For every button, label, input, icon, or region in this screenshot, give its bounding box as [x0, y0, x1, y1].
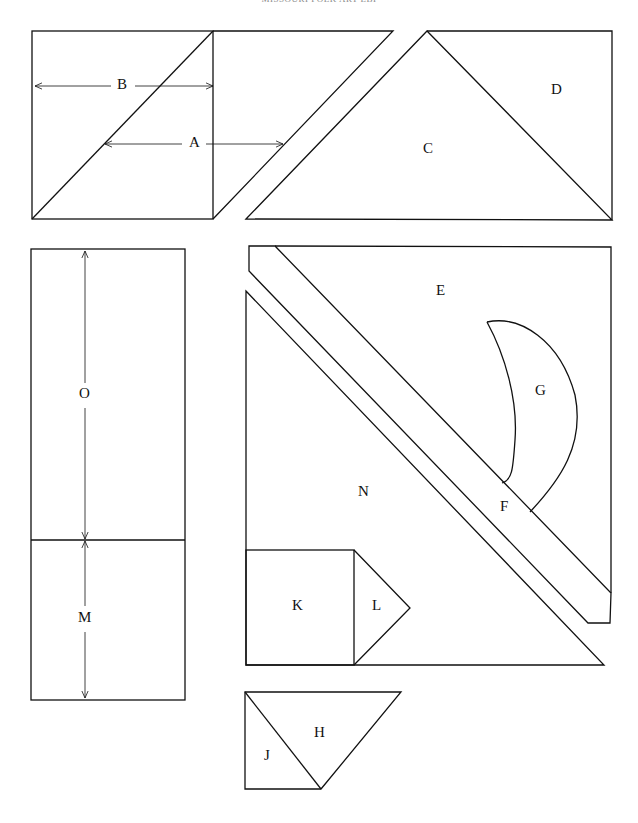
piece-c-triangle	[246, 31, 612, 220]
piece-g-inner	[487, 322, 515, 483]
piece-h-j-outline	[245, 692, 401, 789]
label-a: A	[189, 135, 200, 150]
piece-a-b-group	[32, 31, 393, 219]
piece-o-m-group	[31, 249, 185, 700]
label-n: N	[358, 484, 369, 499]
label-b: B	[117, 77, 127, 92]
piece-l-triangle	[354, 550, 410, 665]
label-k: K	[292, 598, 303, 613]
label-g: G	[535, 383, 546, 398]
piece-g-outer	[487, 321, 577, 512]
piece-o-m-rect	[31, 249, 185, 700]
label-o: O	[79, 386, 90, 401]
label-c: C	[423, 141, 433, 156]
piece-j-divider	[245, 692, 321, 789]
piece-a-parallelogram	[213, 31, 393, 219]
label-m: M	[78, 610, 91, 625]
label-d: D	[551, 82, 562, 97]
label-f: F	[500, 499, 508, 514]
label-h: H	[314, 725, 325, 740]
piece-a-diagonal	[32, 31, 213, 219]
piece-e-f-g-group	[249, 246, 611, 623]
piece-f-strip	[249, 246, 611, 623]
label-e: E	[436, 283, 445, 298]
quilt-pattern-diagram	[0, 0, 638, 823]
piece-c-d-group	[246, 31, 612, 220]
label-l: L	[372, 598, 381, 613]
piece-h-j-group	[245, 692, 401, 789]
label-j: J	[264, 748, 270, 763]
